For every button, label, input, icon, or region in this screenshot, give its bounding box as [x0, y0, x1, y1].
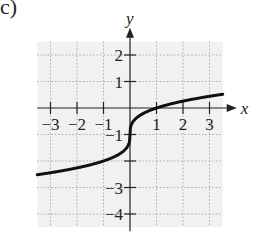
- x-tick-label: 3: [205, 115, 214, 134]
- y-tick-label: −1: [105, 126, 123, 145]
- y-axis-label: y: [124, 9, 134, 28]
- y-tick-label: −3: [105, 179, 123, 198]
- x-axis-label: x: [240, 99, 249, 118]
- x-tick-label: 2: [179, 115, 188, 134]
- x-tick-label: 1: [152, 115, 161, 134]
- x-tick-label: −2: [68, 115, 86, 134]
- graph-figure: c) −3−2−112321−1−3−4xy: [0, 0, 253, 237]
- x-tick-label: −3: [41, 115, 59, 134]
- y-tick-label: 1: [115, 73, 124, 92]
- y-tick-label: −4: [105, 205, 124, 224]
- plot-area: −3−2−112321−1−3−4xy: [0, 0, 253, 237]
- y-tick-label: 2: [115, 46, 124, 65]
- y-axis-arrow-icon: [126, 28, 134, 38]
- x-axis-arrow-icon: [227, 104, 237, 112]
